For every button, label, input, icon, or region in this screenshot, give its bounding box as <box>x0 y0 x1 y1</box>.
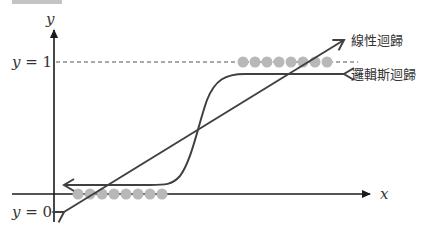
y1-label: y = 1 <box>11 53 52 71</box>
x-axis-label: x <box>380 185 389 203</box>
legend-linear-regression: 線性迴歸 <box>351 33 403 48</box>
y0-label: y = 0 <box>11 203 52 221</box>
class-1-points <box>238 57 333 68</box>
regression-diagram: y x y = 1 y = 0 線性迴歸 邏輯斯迴歸 <box>0 0 421 232</box>
logistic-regression-curve <box>64 74 344 185</box>
linear-regression-line <box>64 40 344 212</box>
legend-logistic-regression: 邏輯斯迴歸 <box>351 67 416 82</box>
y-axis-label: y <box>45 10 55 28</box>
